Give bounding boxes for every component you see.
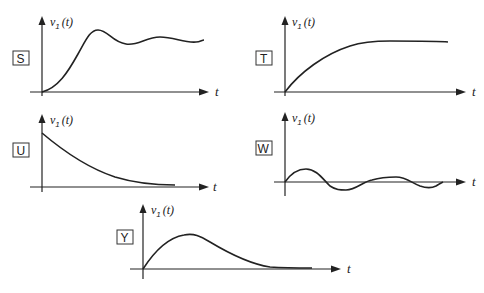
response-curve xyxy=(285,41,448,92)
t-axis-arrow-icon xyxy=(331,266,341,273)
panel-label: S xyxy=(17,52,25,66)
y-axis-arrow-icon xyxy=(39,114,46,123)
y-axis-arrow-icon xyxy=(39,16,46,25)
t-axis-arrow-icon xyxy=(456,179,466,186)
t-axis-label: t xyxy=(347,261,351,276)
panel-label: Y xyxy=(121,231,129,245)
y-axis-label: v1(t) xyxy=(151,203,174,219)
t-axis-label: t xyxy=(213,179,217,194)
panel-t: v1(t) t T xyxy=(256,15,476,99)
y-axis-label: v1(t) xyxy=(50,113,73,129)
y-axis-label: v1(t) xyxy=(292,15,315,31)
t-axis-label: t xyxy=(472,84,476,99)
response-curve xyxy=(42,133,175,185)
t-axis-label: t xyxy=(215,84,219,99)
response-curve xyxy=(143,234,312,269)
y-axis-arrow-icon xyxy=(282,16,289,25)
panel-y: v1(t) t Y xyxy=(117,203,351,279)
response-curve xyxy=(42,30,204,92)
response-curves-figure: v1(t) t S v1(t) t T v1(t) t U v1(t) t xyxy=(0,0,484,293)
t-axis-arrow-icon xyxy=(199,184,209,191)
y-axis-arrow-icon xyxy=(282,112,289,121)
y-axis-label: v1(t) xyxy=(292,111,315,127)
panel-s: v1(t) t S xyxy=(13,15,219,99)
t-axis-arrow-icon xyxy=(199,89,209,96)
y-axis-arrow-icon xyxy=(140,204,147,213)
response-curve xyxy=(285,169,443,190)
t-axis-arrow-icon xyxy=(456,89,466,96)
y-axis-label: v1(t) xyxy=(50,15,73,31)
panel-label: T xyxy=(260,52,268,66)
panel-label: U xyxy=(17,144,26,158)
panel-u: v1(t) t U xyxy=(13,113,217,194)
panel-label: W xyxy=(258,142,270,156)
panel-w: v1(t) t W xyxy=(256,111,476,196)
t-axis-label: t xyxy=(472,174,476,189)
